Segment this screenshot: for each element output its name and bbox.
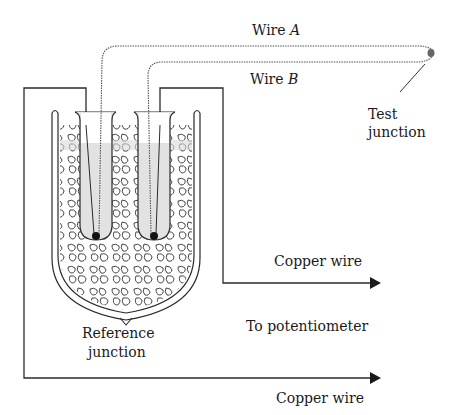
reference-junction-label-1: Reference bbox=[82, 325, 154, 341]
test-junction-tip-icon bbox=[428, 49, 435, 57]
test-junction-pointer bbox=[400, 64, 425, 92]
copper-wire-upper-label: Copper wire bbox=[274, 253, 362, 269]
wire-a-label: Wire A bbox=[252, 22, 300, 38]
test-junction-label-2: junction bbox=[366, 124, 426, 140]
arrow-head-icon bbox=[370, 277, 381, 289]
copper-wire-lower-label: Copper wire bbox=[276, 390, 364, 406]
test-junction-label-1: Test bbox=[368, 106, 398, 122]
arrow-head-icon bbox=[370, 372, 381, 384]
test-tube-right bbox=[134, 112, 175, 240]
test-tube-left bbox=[75, 112, 116, 240]
reference-junction-flask bbox=[52, 111, 200, 326]
to-potentiometer-label: To potentiometer bbox=[246, 318, 368, 334]
thermocouple-diagram: Wire A Wire B Test junction Reference ju… bbox=[0, 0, 456, 415]
wire-b-label: Wire B bbox=[250, 71, 298, 87]
reference-junction-label-2: junction bbox=[86, 344, 146, 360]
